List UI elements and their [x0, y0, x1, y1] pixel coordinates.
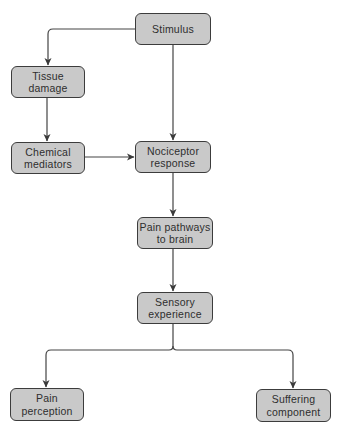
node-label: Pain perception — [21, 392, 72, 417]
node-sensory-experience: Sensory experience — [137, 292, 213, 324]
node-label: Nociceptor response — [147, 145, 199, 170]
node-pain-pathways: Pain pathways to brain — [137, 217, 213, 249]
edge-sensory-suffering — [173, 346, 293, 388]
node-stimulus: Stimulus — [135, 13, 211, 45]
node-nociceptor-response: Nociceptor response — [135, 141, 211, 173]
node-label: Chemical mediators — [24, 146, 72, 171]
connector-layer — [0, 0, 338, 429]
node-label: Stimulus — [152, 23, 194, 36]
node-suffering-component: Suffering component — [256, 389, 331, 422]
node-chemical-mediators: Chemical mediators — [11, 142, 85, 174]
node-pain-perception: Pain perception — [10, 388, 84, 421]
node-label: Pain pathways to brain — [140, 221, 211, 246]
node-label: Tissue damage — [28, 70, 67, 95]
node-tissue-damage: Tissue damage — [11, 66, 85, 98]
edge-sensory-pain-perception — [46, 324, 173, 387]
edge-stimulus-tissue — [48, 29, 135, 65]
node-label: Sensory experience — [148, 296, 201, 321]
node-label: Suffering component — [267, 393, 321, 418]
